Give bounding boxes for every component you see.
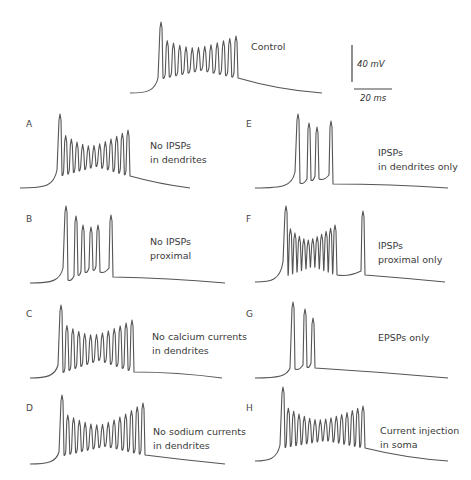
caption-f: IPSPs proximal only bbox=[378, 239, 442, 267]
caption-d: No sodium currents in dendrites bbox=[153, 425, 246, 453]
caption-c: No calcium currents in dendrites bbox=[152, 330, 247, 358]
panel-label-b: B bbox=[26, 214, 32, 224]
panel-label-f: F bbox=[246, 214, 251, 224]
panel-label-h: H bbox=[246, 403, 253, 413]
trace-control bbox=[130, 22, 322, 93]
trace-b bbox=[30, 206, 225, 283]
panel-label-a: A bbox=[26, 119, 32, 129]
caption-control: Control bbox=[251, 40, 285, 54]
panel-label-c: C bbox=[26, 309, 32, 319]
time-scale-label: 20 ms bbox=[360, 93, 386, 103]
panel-label-e: E bbox=[246, 119, 252, 129]
panel-label-d: D bbox=[26, 403, 33, 413]
panel-label-g: G bbox=[246, 309, 253, 319]
caption-h: Current injection in soma bbox=[380, 424, 459, 452]
caption-g: EPSPs only bbox=[378, 331, 429, 345]
caption-e: IPSPs in dendrites only bbox=[378, 146, 458, 174]
voltage-scale-label: 40 mV bbox=[357, 59, 385, 69]
caption-a: No IPSPs in dendrites bbox=[150, 139, 207, 167]
caption-b: No IPSPs proximal bbox=[150, 235, 191, 263]
